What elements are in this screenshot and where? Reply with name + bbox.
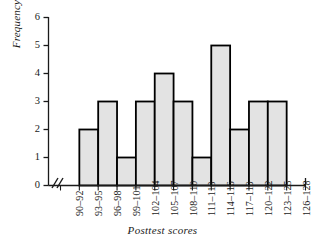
x-axis-category-label: 105–107: [169, 180, 180, 216]
x-axis-category-label: 117–119: [244, 181, 255, 216]
x-axis-category-label: 96–98: [112, 191, 123, 217]
plot-bars: [79, 46, 286, 186]
x-axis-category-label: 102–104: [150, 180, 161, 216]
histogram-chart: Frequency Posttest scores 0123456 90–929…: [0, 0, 325, 242]
x-axis-category-label: 90–92: [74, 191, 85, 217]
histogram-bar: [211, 46, 230, 186]
histogram-bar: [155, 74, 174, 186]
histogram-bar: [98, 102, 117, 186]
histogram-bar: [268, 102, 287, 186]
x-axis-category-label: 120–122: [263, 180, 274, 216]
y-axis-tick-label: 6: [26, 12, 40, 22]
y-axis-tick-label: 0: [26, 180, 40, 190]
x-axis-category-label: 111–113: [206, 181, 217, 216]
x-axis-category-label: 93–95: [93, 191, 104, 217]
y-axis-ticks: [44, 18, 49, 186]
histogram-bar: [79, 130, 98, 186]
chart-canvas: [0, 0, 325, 242]
x-axis-category-label: 126–128: [301, 180, 312, 216]
x-axis-category-label: 108–110: [188, 181, 199, 216]
y-axis-tick-label: 5: [26, 40, 40, 50]
x-axis-category-label: 99–101: [131, 185, 142, 216]
x-axis-title: Posttest scores: [0, 224, 325, 236]
histogram-bar: [117, 158, 136, 186]
axis-break-icon: [52, 178, 63, 188]
histogram-bar: [230, 130, 249, 186]
histogram-bar: [249, 102, 268, 186]
y-axis-tick-label: 1: [26, 152, 40, 162]
y-axis-tick-label: 3: [26, 96, 40, 106]
y-axis-tick-label: 2: [26, 124, 40, 134]
y-axis-title: Frequency: [9, 0, 23, 70]
histogram-bar: [174, 102, 193, 186]
x-axis-category-label: 123–125: [282, 180, 293, 216]
x-axis-category-label: 114–116: [225, 181, 236, 216]
y-axis-tick-label: 4: [26, 68, 40, 78]
histogram-bar: [136, 102, 155, 186]
